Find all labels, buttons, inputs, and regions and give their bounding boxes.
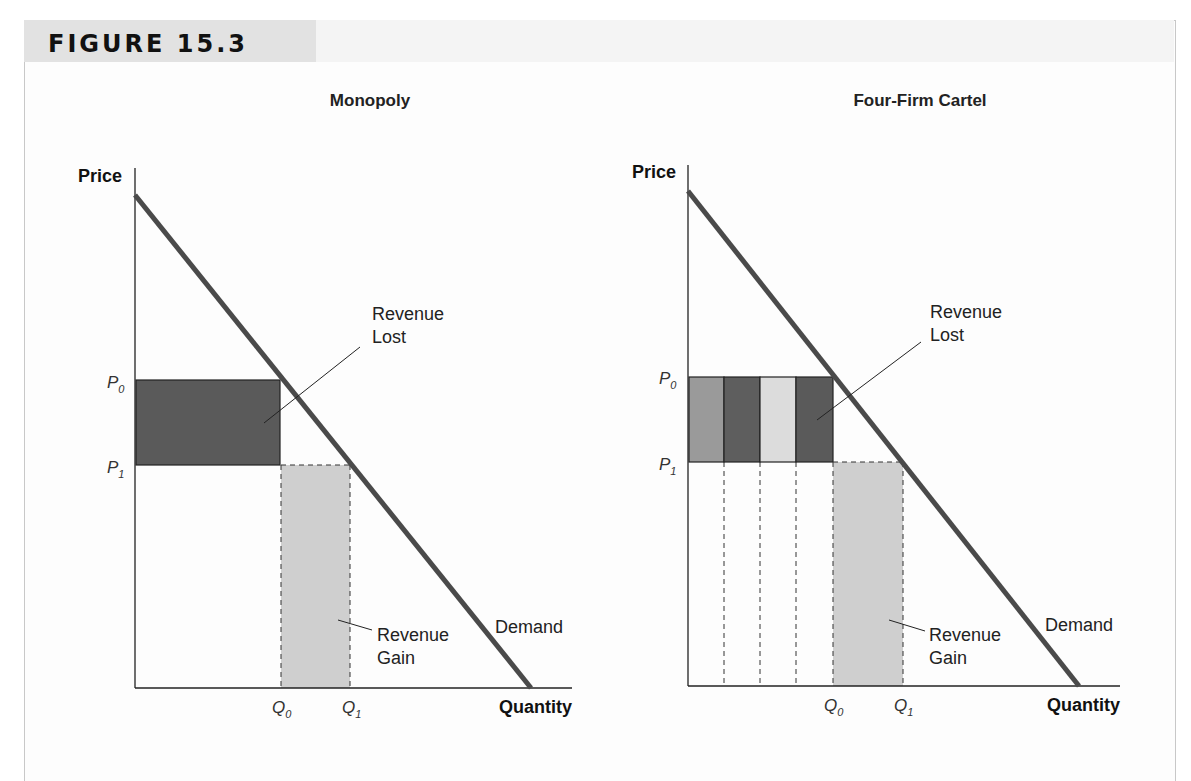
monopoly-chart: Monopoly Price Quantity P0 P1 Q0 Q1 Reve… — [78, 91, 572, 720]
revenue-gain-label-line2: Gain — [929, 648, 967, 668]
cartel-chart: Four-Firm Cartel Price Quantity P0 P1 Q0… — [632, 91, 1120, 718]
revenue-gain-label-line1: Revenue — [377, 625, 449, 645]
firm1-revenue-lost — [689, 377, 724, 462]
q1-label: Q1 — [894, 696, 913, 718]
revenue-gain-label-line2: Gain — [377, 648, 415, 668]
revenue-lost-label-line2: Lost — [930, 325, 964, 345]
p0-label: P0 — [659, 369, 677, 391]
p1-label: P1 — [659, 455, 676, 477]
y-axis-label: Price — [632, 162, 676, 182]
q1-label: Q1 — [342, 698, 361, 720]
firm4-revenue-lost — [796, 377, 833, 462]
revenue-lost-area — [136, 380, 280, 465]
x-axis-label: Quantity — [499, 697, 572, 717]
revenue-gain-area — [833, 462, 903, 686]
q0-label: Q0 — [824, 696, 844, 718]
x-axis-label: Quantity — [1047, 695, 1120, 715]
revenue-gain-area — [281, 465, 350, 688]
demand-label: Demand — [495, 617, 563, 637]
revenue-lost-label-line1: Revenue — [930, 302, 1002, 322]
revenue-gain-label-line1: Revenue — [929, 625, 1001, 645]
p0-label: P0 — [107, 373, 125, 395]
demand-label: Demand — [1045, 615, 1113, 635]
firm2-revenue-lost — [724, 377, 760, 462]
chart-title: Monopoly — [330, 91, 411, 110]
y-axis-label: Price — [78, 166, 122, 186]
revenue-lost-label-line1: Revenue — [372, 304, 444, 324]
p1-label: P1 — [107, 458, 124, 480]
q0-label: Q0 — [272, 698, 292, 720]
firm3-revenue-lost — [760, 377, 796, 462]
revenue-lost-label-line2: Lost — [372, 327, 406, 347]
chart-title: Four-Firm Cartel — [853, 91, 986, 110]
